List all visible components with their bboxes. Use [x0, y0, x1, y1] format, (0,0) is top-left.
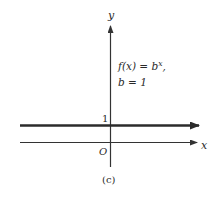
y-axis-label: y [107, 9, 115, 22]
parameter-label: b = 1 [118, 76, 147, 88]
x-axis-label: x [201, 139, 208, 152]
graph-canvas: y x O 1 f(x) = bx, b = 1 (c) [0, 0, 216, 199]
function-label-suffix: , [162, 60, 165, 72]
caption: (c) [102, 174, 116, 185]
function-label: f(x) = bx, [117, 59, 166, 72]
y-tick-1: 1 [102, 113, 108, 124]
origin-label: O [99, 146, 107, 157]
function-label-base: f(x) = b [117, 60, 158, 72]
